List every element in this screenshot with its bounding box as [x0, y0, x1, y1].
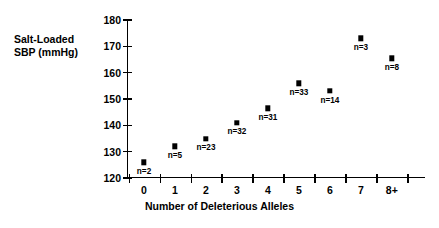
x-tick-mark: [283, 174, 284, 183]
data-point-marker: [141, 159, 146, 164]
scatter-chart: Salt-Loaded SBP (mmHg) 12013014015016017…: [0, 0, 439, 228]
plot-area: 120130140150160170180 012345678+ n=2n=5n…: [127, 20, 425, 178]
x-axis-title: Number of Deleterious Alleles: [0, 200, 439, 212]
x-tick-label: 0: [141, 185, 147, 196]
y-tick-label: 140: [103, 120, 121, 131]
x-tick-label: 3: [234, 185, 240, 196]
data-point-marker: [358, 36, 363, 41]
y-tick-mark: [123, 98, 132, 99]
x-tick-mark: [129, 174, 130, 183]
data-point-marker: [203, 136, 208, 141]
y-tick-label: 160: [103, 67, 121, 78]
y-tick-mark: [123, 72, 132, 73]
x-tick-label: 4: [265, 185, 271, 196]
data-point-marker: [389, 55, 394, 60]
data-point-marker: [296, 80, 301, 85]
y-tick-label: 120: [103, 173, 121, 184]
data-point-label: n=3: [354, 44, 368, 52]
y-tick-mark: [123, 177, 132, 178]
x-axis-line: [127, 177, 425, 178]
x-tick-mark: [160, 174, 161, 183]
y-tick-mark: [123, 125, 132, 126]
data-point-marker: [172, 144, 177, 149]
x-tick-mark: [314, 174, 315, 183]
x-tick-mark: [252, 174, 253, 183]
y-tick-label: 130: [103, 146, 121, 157]
data-point-label: n=31: [258, 114, 277, 122]
x-tick-label: 5: [296, 185, 302, 196]
x-tick-mark: [221, 174, 222, 183]
x-tick-label: 6: [327, 185, 333, 196]
y-tick-label: 150: [103, 94, 121, 105]
y-tick-mark: [123, 19, 132, 20]
data-point-marker: [327, 88, 332, 93]
y-tick-mark: [123, 46, 132, 47]
x-tick-mark: [376, 174, 377, 183]
x-tick-label: 7: [358, 185, 364, 196]
data-point-label: n=8: [385, 64, 399, 72]
y-axis-title: Salt-Loaded SBP (mmHg): [14, 33, 106, 58]
x-tick-label: 2: [203, 185, 209, 196]
data-point-label: n=2: [137, 168, 151, 176]
x-tick-mark: [191, 174, 192, 183]
data-point-label: n=32: [228, 128, 247, 136]
y-tick-mark: [123, 151, 132, 152]
data-point-label: n=23: [197, 144, 216, 152]
x-tick-mark: [407, 174, 408, 183]
x-tick-mark: [345, 174, 346, 183]
x-tick-label: 1: [172, 185, 178, 196]
data-point-marker: [234, 120, 239, 125]
x-tick-label: 8+: [386, 185, 398, 196]
y-tick-label: 180: [103, 15, 121, 26]
data-point-marker: [265, 106, 270, 111]
y-tick-label: 170: [103, 41, 121, 52]
data-point-label: n=33: [289, 89, 308, 97]
data-point-label: n=5: [168, 152, 182, 160]
data-point-label: n=14: [320, 97, 339, 105]
